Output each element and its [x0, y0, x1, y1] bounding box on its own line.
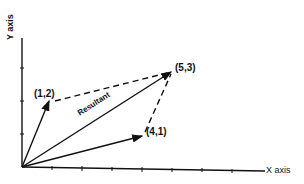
resultant-arrow	[22, 72, 171, 167]
point-label-a: (1,2)	[34, 88, 55, 99]
vector-a-arrow	[22, 101, 49, 167]
dashed-line-a-to-resultant	[55, 72, 171, 101]
x-axis	[22, 167, 265, 171]
dashed-line-b-to-resultant	[145, 74, 171, 132]
point-label-b: (4,1)	[146, 126, 167, 137]
point-label-resultant: (5,3)	[175, 62, 196, 73]
y-axis-label: Y axis	[5, 14, 15, 40]
vector-b-arrow	[22, 136, 142, 167]
x-axis-label: X axis	[266, 165, 291, 175]
